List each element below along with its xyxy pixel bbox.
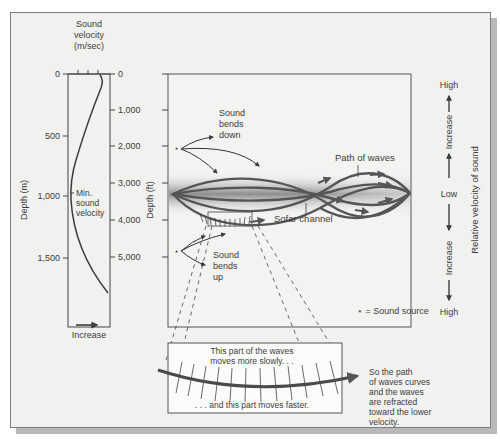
depth-m-tick-1500: 1,500	[37, 253, 60, 263]
depth-m-tick-500: 500	[45, 131, 60, 141]
inset-fast-text: . . . and this part moves faster.	[195, 400, 309, 410]
velocity-curve	[71, 75, 108, 293]
explanation-line6: velocity.	[369, 417, 399, 427]
min-velocity-line2: sound	[76, 198, 99, 208]
sound-source-legend: ⋆ = Sound source	[357, 306, 429, 316]
relative-velocity-label: Relative velocity of sound	[469, 146, 480, 254]
bends-up-line1: Sound	[213, 250, 239, 260]
bends-down-line2: bends	[219, 119, 244, 129]
min-velocity-line3: velocity	[76, 208, 105, 218]
profile-title-line1: Sound	[76, 19, 102, 29]
scale-high-bottom: High	[440, 307, 459, 317]
depth-ft-tick-5000: 5,000	[118, 252, 141, 262]
sofar-diagram: Sound velocity (m/sec) 0 500 1,000 1,500…	[0, 0, 500, 441]
velocity-profile-chart: Sound velocity (m/sec) 0 500 1,000 1,500…	[19, 19, 141, 340]
depth-ft-tick-0: 0	[118, 69, 123, 79]
scale-high-top: High	[440, 80, 459, 90]
inset-slow-line1: This part of the waves	[210, 346, 293, 356]
min-velocity-line1: Min.	[76, 188, 92, 198]
explanation-line5: toward the lower	[369, 407, 432, 417]
scale-increase-lower: Increase	[444, 241, 454, 276]
depth-ft-label: Depth (ft)	[145, 181, 155, 219]
profile-title-line3: (m/sec)	[74, 41, 104, 51]
bends-up-line2: bends	[213, 261, 238, 271]
sound-source-star-upper: ⋆	[174, 144, 179, 153]
inset-slow-line2: moves more slowly. . .	[210, 356, 293, 366]
sound-source-star-lower: ⋆	[174, 247, 179, 256]
explanation-line2: of waves curves	[369, 377, 430, 387]
bends-down-line3: down	[219, 130, 241, 140]
explanation-line1: So the path	[369, 367, 413, 377]
path-of-waves-label: Path of waves	[335, 152, 395, 163]
relative-velocity-scale: High Increase Low Increase High Relative…	[440, 80, 480, 317]
depth-ft-tick-1000: 1,000	[118, 105, 141, 115]
bends-down-line1: Sound	[219, 108, 245, 118]
depth-m-label: Depth (m)	[19, 180, 29, 220]
explanation-line3: and the waves	[369, 387, 424, 397]
depth-ft-tick-4000: 4,000	[118, 215, 141, 225]
bends-up-line3: up	[213, 272, 223, 282]
sound-source-star-channel: ⋆	[170, 190, 175, 199]
depth-ft-tick-2000: 2,000	[118, 141, 141, 151]
velocity-increase-label: Increase	[72, 330, 107, 340]
depth-m-tick-1000: 1,000	[37, 191, 60, 201]
sofar-channel-label: Sofar channel	[274, 213, 333, 224]
scale-low-label: Low	[441, 189, 458, 199]
scale-increase-upper: Increase	[444, 115, 454, 150]
profile-title-line2: velocity	[74, 30, 105, 40]
explanation-line4: are refracted	[369, 397, 417, 407]
depth-m-tick-0: 0	[55, 69, 60, 79]
refraction-inset: This part of the waves moves more slowly…	[158, 343, 432, 427]
depth-ft-tick-3000: 3,000	[118, 178, 141, 188]
